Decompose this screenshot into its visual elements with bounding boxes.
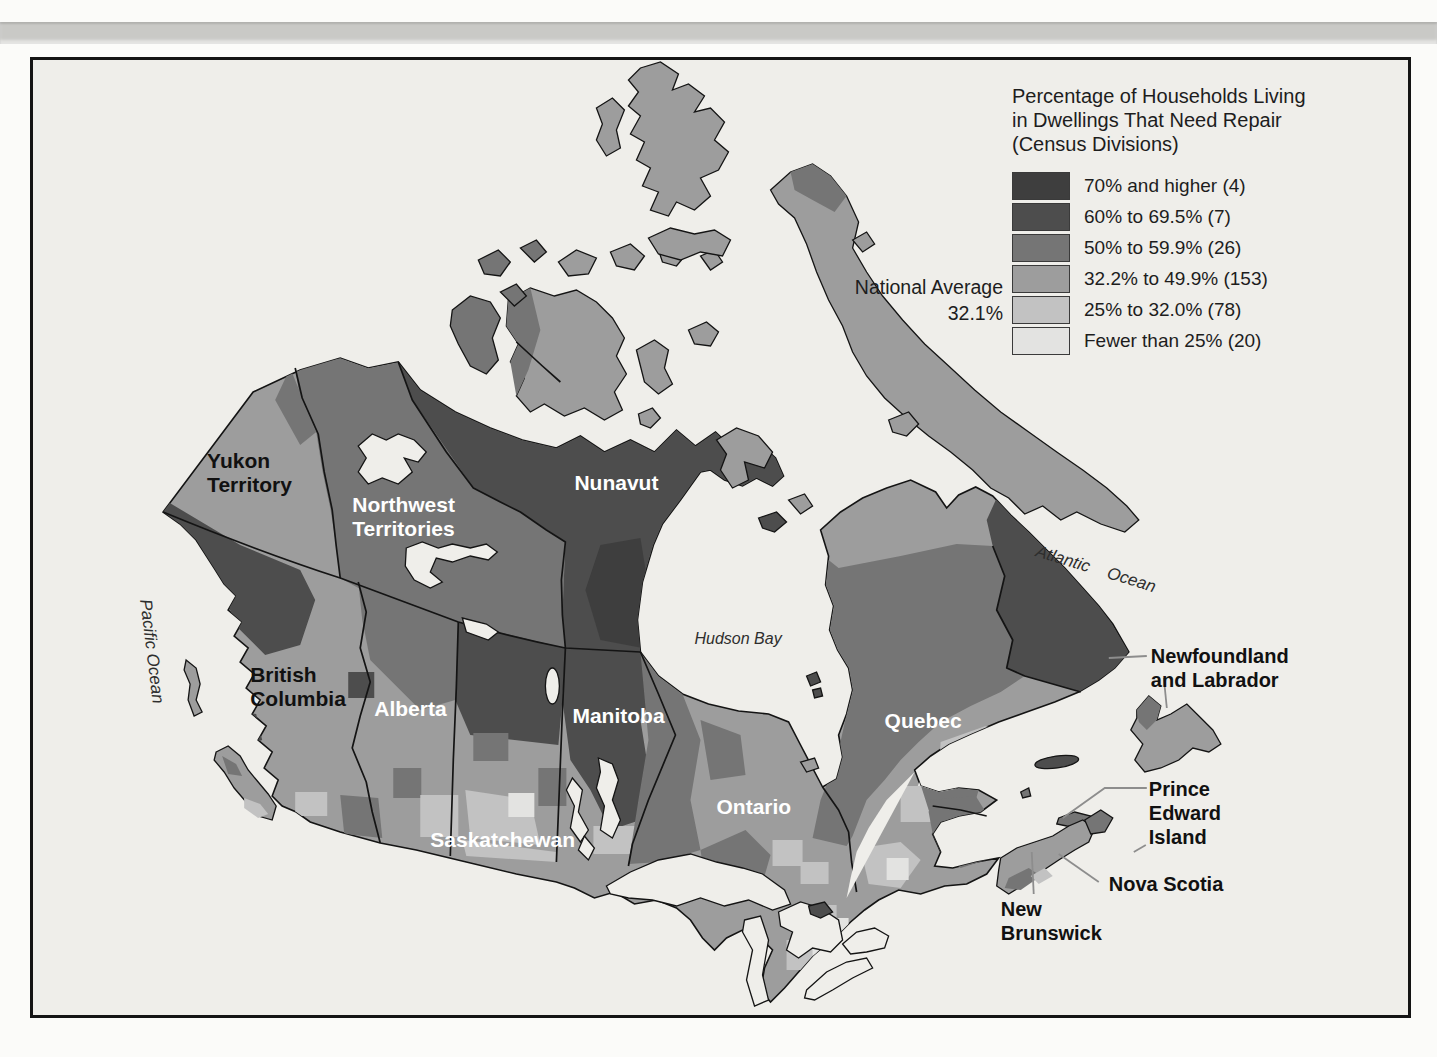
label-nwt: NorthwestTerritories [352,493,455,540]
legend-swatch-under-25 [1012,327,1070,355]
legend-swatch-50-59 [1012,234,1070,262]
legend-swatch-32-49 [1012,265,1070,293]
label-alberta: Alberta [374,697,447,720]
legend-row: 70% and higher (4) [1012,170,1402,201]
legend-row: 32.2% to 49.9% (153) [1012,263,1402,294]
legend-row: Fewer than 25% (20) [1012,325,1402,356]
legend-title: Percentage of Households Living in Dwell… [1012,84,1402,156]
legend-label: 70% and higher (4) [1070,175,1246,197]
legend-label: 25% to 32.0% (78) [1070,299,1241,321]
national-average: National Average 32.1% [803,274,1003,326]
label-quebec: Quebec [885,709,962,732]
legend-label: 32.2% to 49.9% (153) [1070,268,1268,290]
legend-row: 60% to 69.5% (7) [1012,201,1402,232]
page-scan-band [0,22,1437,44]
label-hudson-bay: Hudson Bay [694,630,782,647]
label-nunavut: Nunavut [574,471,658,494]
legend-swatch-70-plus [1012,172,1070,200]
legend-label: Fewer than 25% (20) [1070,330,1261,352]
legend-label: 60% to 69.5% (7) [1070,206,1231,228]
label-manitoba: Manitoba [572,704,665,727]
legend-label: 50% to 59.9% (26) [1070,237,1241,259]
label-nova-scotia: Nova Scotia [1109,873,1224,895]
national-average-label: National Average [803,274,1003,300]
legend-swatch-60-69 [1012,203,1070,231]
legend-row: 50% to 59.9% (26) [1012,232,1402,263]
label-ontario: Ontario [716,795,791,818]
label-saskatchewan: Saskatchewan [430,828,575,851]
legend-row: 25% to 32.0% (78) [1012,294,1402,325]
national-average-value: 32.1% [803,300,1003,326]
legend-swatch-25-32 [1012,296,1070,324]
legend: Percentage of Households Living in Dwell… [1012,84,1402,356]
map-figure: YukonTerritory NorthwestTerritories Nuna… [30,57,1411,1018]
